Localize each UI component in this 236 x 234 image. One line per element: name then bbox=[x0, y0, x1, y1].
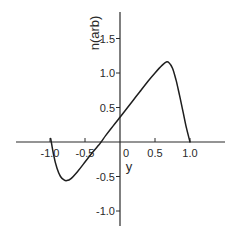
x-tick-label: 0.5 bbox=[147, 147, 162, 159]
x-tick-label: -1.0 bbox=[41, 147, 60, 159]
y-tick-label: -0.5 bbox=[96, 171, 115, 183]
y-axis-label: n(arb) bbox=[87, 16, 102, 51]
y-tick-label: -1.0 bbox=[96, 205, 115, 217]
y-tick-label: 0.5 bbox=[100, 102, 115, 114]
x-tick-label: 1.0 bbox=[182, 147, 197, 159]
axes bbox=[16, 12, 225, 226]
y-tick-label: 1.0 bbox=[100, 67, 115, 79]
x-axis-label: y bbox=[126, 159, 133, 174]
tick-labels: -1.0-0.500.51.0-1.0-0.50.51.01.5 bbox=[41, 33, 198, 218]
chart-plot: -1.0-0.500.51.0-1.0-0.50.51.01.5 y n(arb… bbox=[0, 0, 236, 234]
x-tick-label: 0 bbox=[123, 147, 129, 159]
